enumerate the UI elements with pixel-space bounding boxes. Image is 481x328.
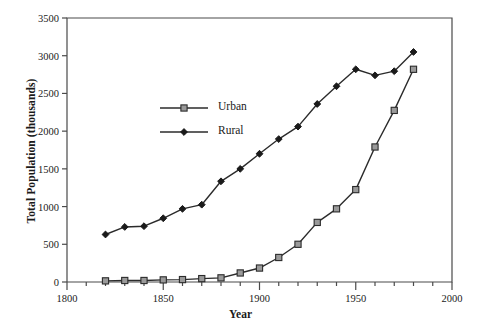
x-tick-label: 1900 [230, 293, 290, 304]
data-point-marker [121, 224, 128, 231]
x-tick-label: 2000 [422, 293, 481, 304]
y-tick-label: 2000 [19, 126, 59, 137]
data-point-marker [181, 129, 188, 136]
data-point-marker [372, 72, 379, 79]
plot-area [0, 0, 481, 328]
x-axis-title: Year [0, 308, 481, 320]
legend-graphics [160, 105, 208, 135]
data-point-marker [141, 223, 148, 230]
data-point-marker [237, 270, 243, 276]
data-point-marker [122, 277, 128, 283]
data-point-marker [102, 231, 109, 238]
data-point-marker [181, 105, 187, 111]
y-tick-label: 3500 [19, 13, 59, 24]
legend-item-urban: Urban [218, 100, 247, 112]
x-tick-label: 1850 [133, 293, 193, 304]
data-point-marker [276, 254, 282, 260]
data-point-marker [353, 187, 359, 193]
data-point-marker [410, 66, 416, 72]
series-rural [102, 49, 417, 238]
data-point-marker [391, 107, 397, 113]
data-point-marker [295, 241, 301, 247]
data-point-marker [141, 277, 147, 283]
y-axis-ticks [62, 18, 67, 282]
data-point-marker [160, 215, 167, 222]
data-point-marker [333, 206, 339, 212]
data-point-marker [102, 278, 108, 284]
y-tick-label: 2500 [19, 88, 59, 99]
y-tick-label: 500 [19, 239, 59, 250]
y-tick-label: 1000 [19, 201, 59, 212]
data-point-marker [218, 275, 224, 281]
y-tick-label: 0 [19, 277, 59, 288]
data-point-marker [160, 277, 166, 283]
data-point-marker [372, 144, 378, 150]
series-line [106, 69, 414, 281]
y-tick-label: 3000 [19, 50, 59, 61]
x-tick-label: 1800 [37, 293, 97, 304]
y-tick-label: 1500 [19, 163, 59, 174]
data-point-marker [179, 205, 186, 212]
data-point-marker [256, 265, 262, 271]
legend-item-rural: Rural [218, 124, 244, 136]
data-point-marker [199, 276, 205, 282]
series-line [106, 52, 414, 235]
x-tick-label: 1950 [326, 293, 386, 304]
series-urban [102, 66, 416, 284]
data-point-marker [179, 276, 185, 282]
population-line-chart: Total Population (thousands) Year 050010… [0, 0, 481, 328]
data-point-marker [314, 219, 320, 225]
